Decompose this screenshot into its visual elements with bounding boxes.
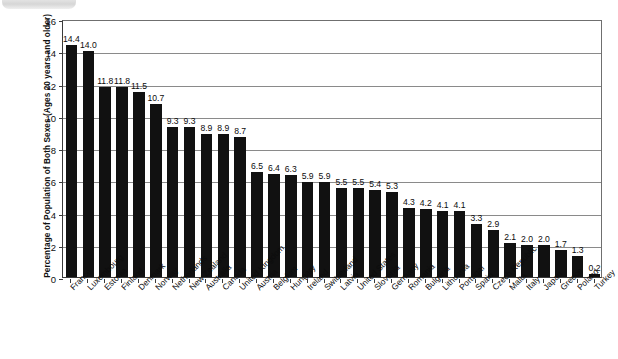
bar-value-label: 4.1 — [454, 200, 466, 210]
y-tick-label: 10 — [45, 112, 56, 123]
bar-value-label: 2.9 — [487, 219, 499, 229]
bar-value-label: 5.5 — [335, 177, 347, 187]
y-tick-label: 8 — [51, 145, 56, 156]
bar-value-label: 1.3 — [572, 245, 584, 255]
bar-malta[interactable]: 2.1 — [504, 19, 515, 277]
bar-value-label: 2.0 — [521, 234, 533, 244]
bar-norway[interactable]: 10.7 — [150, 19, 161, 277]
bar-germany[interactable]: 5.3 — [386, 19, 397, 277]
bar-united-kingdom[interactable]: 8.7 — [234, 19, 245, 277]
bar-rect — [99, 87, 110, 277]
bar-value-label: 3.3 — [470, 213, 482, 223]
bar-slovenia[interactable]: 5.4 — [369, 19, 380, 277]
bar-value-label: 2.0 — [538, 234, 550, 244]
bar-value-label: 5.4 — [369, 179, 381, 189]
bar-rect — [150, 104, 161, 277]
bar-value-label: 5.9 — [319, 171, 331, 181]
bar-greece[interactable]: 1.7 — [555, 19, 566, 277]
bar-value-label: 1.7 — [555, 239, 567, 249]
bar-value-label: 14.0 — [80, 40, 97, 50]
bar-switzerland[interactable]: 5.9 — [319, 19, 330, 277]
bar-hungary[interactable]: 6.3 — [285, 19, 296, 277]
bar-denmark[interactable]: 11.5 — [133, 19, 144, 277]
bar-value-label: 4.3 — [403, 197, 415, 207]
y-tick-label: 2 — [51, 241, 56, 252]
bar-chart: Percentage of Population of Both Sexes (… — [0, 0, 618, 359]
bar-estonia[interactable]: 11.8 — [99, 19, 110, 277]
bar-bulgaria[interactable]: 4.2 — [420, 19, 431, 277]
y-tick-label: 12 — [45, 80, 56, 91]
bar-luxembourg[interactable]: 14.0 — [83, 19, 94, 277]
y-tick-label: 4 — [51, 209, 56, 220]
y-tick-label: 0 — [51, 274, 56, 285]
bar-rect — [116, 87, 127, 277]
y-tick-mark — [59, 279, 63, 280]
bar-rect — [167, 127, 178, 277]
y-tick-label: 6 — [51, 177, 56, 188]
bar-portugal[interactable]: 4.1 — [454, 19, 465, 277]
bar-value-label: 11.8 — [97, 76, 113, 86]
bar-italy[interactable]: 2.0 — [521, 19, 532, 277]
bars-layer: 14.414.011.811.811.510.79.39.38.98.98.76… — [63, 21, 601, 277]
plot-area: 0246810121416 14.414.011.811.811.510.79.… — [62, 20, 602, 278]
bar-japan[interactable]: 2.0 — [538, 19, 549, 277]
bar-rect — [319, 182, 330, 277]
bar-romania[interactable]: 4.3 — [403, 19, 414, 277]
bar-value-label: 6.4 — [268, 163, 280, 173]
bar-value-label: 6.5 — [251, 161, 263, 171]
bar-value-label: 9.3 — [167, 116, 179, 126]
bar-finland[interactable]: 11.8 — [116, 19, 127, 277]
bar-rect — [234, 137, 245, 277]
bar-rect — [538, 245, 549, 277]
bar-value-label: 5.9 — [302, 171, 314, 181]
bar-value-label: 5.5 — [352, 177, 364, 187]
y-tick-label: 16 — [45, 16, 56, 27]
bar-value-label: 0.2 — [589, 263, 601, 273]
bar-latvia[interactable]: 5.5 — [336, 19, 347, 277]
bar-united-states[interactable]: 5.5 — [353, 19, 364, 277]
bar-value-label: 6.3 — [285, 164, 297, 174]
bar-value-label: 9.3 — [184, 116, 196, 126]
y-tick-label: 14 — [45, 48, 56, 59]
bar-rect — [83, 51, 94, 277]
bar-value-label: 8.9 — [200, 123, 212, 133]
bar-lithuania[interactable]: 4.1 — [437, 19, 448, 277]
bar-austria[interactable]: 6.5 — [251, 19, 262, 277]
bar-spain[interactable]: 3.3 — [471, 19, 482, 277]
bar-value-label: 10.7 — [147, 93, 164, 103]
bar-rect — [133, 92, 144, 277]
bar-value-label: 2.1 — [504, 232, 516, 242]
bar-value-label: 8.7 — [234, 126, 246, 136]
bar-turkey[interactable]: 0.2 — [589, 19, 600, 277]
bar-value-label: 5.3 — [386, 181, 398, 191]
bar-netherlands[interactable]: 9.3 — [167, 19, 178, 277]
bar-australia[interactable]: 8.9 — [201, 19, 212, 277]
bar-new-zealand[interactable]: 9.3 — [184, 19, 195, 277]
bar-value-label: 4.1 — [437, 200, 449, 210]
bar-poland[interactable]: 1.3 — [572, 19, 583, 277]
bar-rect — [285, 175, 296, 277]
bar-belgium[interactable]: 6.4 — [268, 19, 279, 277]
bar-value-label: 11.5 — [131, 81, 147, 91]
bar-france[interactable]: 14.4 — [66, 19, 77, 277]
bar-rect — [66, 45, 77, 277]
bar-canada[interactable]: 8.9 — [218, 19, 229, 277]
bar-value-label: 8.9 — [217, 123, 229, 133]
bar-czech-republic[interactable]: 2.9 — [488, 19, 499, 277]
bar-value-label: 14.4 — [63, 34, 80, 44]
bar-rect — [488, 230, 499, 277]
bar-ireland[interactable]: 5.9 — [302, 19, 313, 277]
bar-rect — [184, 127, 195, 277]
bar-value-label: 4.2 — [420, 198, 432, 208]
bar-value-label: 11.8 — [114, 76, 130, 86]
